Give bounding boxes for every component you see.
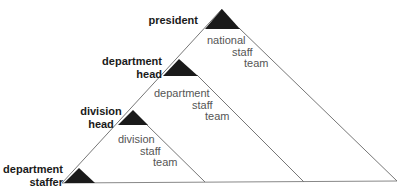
department-staffer-label-line1: department xyxy=(3,163,63,176)
division-head-label-line1: division xyxy=(80,105,122,118)
team-word: department xyxy=(154,88,229,100)
team-word: team xyxy=(244,58,268,70)
division-head-label-line2: head xyxy=(80,118,122,131)
department-staffer-label: department staffer xyxy=(3,163,63,189)
department-staffer-label-line2: staffer xyxy=(3,176,63,189)
department-head-label: department head xyxy=(102,55,162,81)
national-team-label: national staff team xyxy=(207,35,268,70)
department-head-label-line2: head xyxy=(102,68,162,81)
president-label: president xyxy=(148,14,198,27)
division-head-label: division head xyxy=(80,105,122,131)
team-word: national xyxy=(207,35,268,47)
team-word: division xyxy=(118,134,177,146)
team-word: team xyxy=(153,157,177,169)
president-marker-icon xyxy=(205,9,240,29)
president-label-line1: president xyxy=(148,14,198,26)
division-team-label: division staff team xyxy=(118,134,177,169)
pyramid-base-line xyxy=(62,181,397,183)
department-team-label: department staff team xyxy=(154,88,229,123)
team-word: team xyxy=(205,111,229,123)
department-head-label-line1: department xyxy=(102,55,162,68)
